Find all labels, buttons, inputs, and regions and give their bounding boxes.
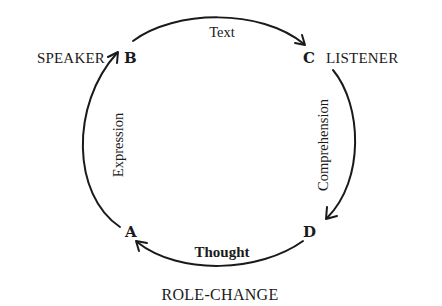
edge-label-expression: Expression: [110, 112, 126, 177]
node-d-letter: D: [303, 223, 316, 241]
diagram-caption: ROLE-CHANGE: [161, 286, 278, 303]
arc-comprehension: [327, 70, 355, 218]
edge-label-thought: Thought: [194, 244, 249, 260]
communication-cycle-diagram: B C A D SPEAKER LISTENER Text Thought Ex…: [0, 0, 442, 306]
edge-label-text: Text: [209, 24, 235, 40]
node-c-letter: C: [303, 49, 315, 67]
node-b-letter: B: [124, 49, 137, 67]
speaker-label: SPEAKER: [37, 50, 105, 66]
node-a-letter: A: [124, 223, 137, 241]
edge-label-comprehension: Comprehension: [315, 98, 331, 191]
listener-label: LISTENER: [326, 50, 398, 66]
